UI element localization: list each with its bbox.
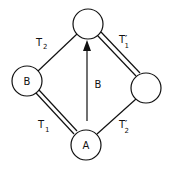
node-top [73, 9, 103, 39]
node-right [131, 73, 161, 103]
edge-t2 [38, 34, 77, 71]
edge-t2-prime-label: T′2 [118, 119, 129, 135]
arrowhead-icon [83, 40, 91, 51]
node-bottom-label: A [83, 140, 90, 151]
arrow-label: B [95, 79, 102, 90]
edge-t2-label: T2 [35, 37, 48, 51]
diagram-canvas: B A B T2 T′1 T1 T′2 [0, 0, 171, 170]
edge-t2-prime [97, 99, 136, 134]
edge-t1-prime-label: T′1 [118, 34, 129, 50]
edge-t1-label: T1 [37, 119, 50, 134]
node-left-label: B [24, 76, 31, 87]
